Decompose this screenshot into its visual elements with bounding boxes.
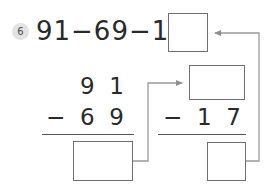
left-column-minus-operator: − [46, 105, 65, 129]
left-column-minuend: 9 1 [80, 74, 124, 98]
right-column-result-box[interactable] [207, 142, 246, 181]
problem-number-badge: 6 [12, 23, 29, 40]
right-column-minuend-box[interactable] [189, 65, 245, 100]
top-result-box[interactable] [168, 13, 208, 52]
right-column-rule [158, 134, 246, 135]
right-column-subtrahend: 1 7 [197, 105, 241, 129]
worksheet-page: 6 91−69−17= 9 1 − 6 9 − 1 7 [0, 0, 267, 192]
left-column-subtrahend: 6 9 [80, 105, 124, 129]
left-column-rule [42, 134, 134, 135]
left-column-result-box[interactable] [73, 141, 133, 181]
right-column-minus-operator: − [163, 105, 182, 129]
